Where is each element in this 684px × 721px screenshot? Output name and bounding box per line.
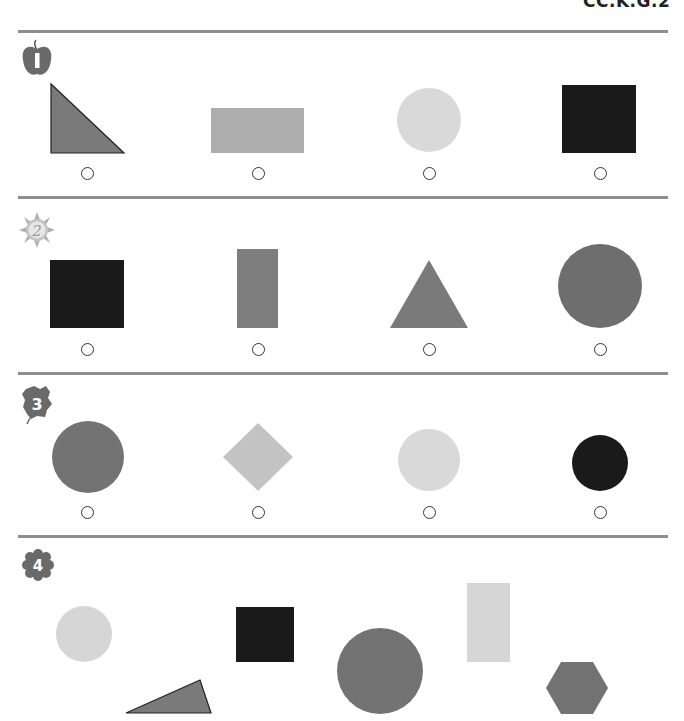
- answer-radio-1c[interactable]: [423, 167, 436, 180]
- circle-shape: [398, 429, 460, 491]
- section-divider: [18, 535, 668, 538]
- square-shape: [50, 260, 124, 328]
- leaf-icon: 3: [22, 386, 52, 424]
- flower-icon: 4: [22, 549, 54, 581]
- hexagon-shape: [546, 662, 608, 714]
- answer-radio-3b[interactable]: [252, 506, 265, 519]
- triangle-shape: [126, 680, 211, 713]
- circle-shape: [397, 88, 461, 152]
- answer-radio-3d[interactable]: [594, 506, 607, 519]
- circle-shape: [572, 435, 628, 491]
- section-divider: [18, 30, 668, 33]
- square-shape: [562, 85, 636, 153]
- rectangle-shape: [467, 583, 510, 662]
- circle-shape: [337, 628, 423, 714]
- circle-shape: [56, 606, 112, 662]
- apple-icon: [23, 40, 52, 75]
- right-triangle-shape: [51, 84, 124, 153]
- answer-radio-2b[interactable]: [252, 343, 265, 356]
- svg-text:2: 2: [31, 222, 42, 240]
- sun-icon: 2: [19, 212, 55, 248]
- triangle-shape: [390, 260, 468, 328]
- rectangle-shape: [211, 108, 304, 153]
- answer-radio-2d[interactable]: [594, 343, 607, 356]
- svg-text:4: 4: [33, 557, 43, 575]
- answer-radio-1d[interactable]: [594, 167, 607, 180]
- circle-shape: [52, 421, 124, 493]
- answer-radio-1b[interactable]: [252, 167, 265, 180]
- circle-shape: [558, 244, 642, 328]
- answer-radio-3a[interactable]: [81, 506, 94, 519]
- answer-radio-3c[interactable]: [423, 506, 436, 519]
- answer-radio-2a[interactable]: [81, 343, 94, 356]
- answer-radio-1a[interactable]: [81, 167, 94, 180]
- answer-radio-2c[interactable]: [423, 343, 436, 356]
- svg-text:3: 3: [31, 395, 42, 414]
- section-divider: [18, 196, 668, 199]
- standard-code: CC.K.G.2: [583, 0, 670, 11]
- diamond-shape: [223, 423, 293, 491]
- section-divider: [18, 372, 668, 375]
- rectangle-shape: [237, 249, 278, 328]
- square-shape: [236, 607, 294, 662]
